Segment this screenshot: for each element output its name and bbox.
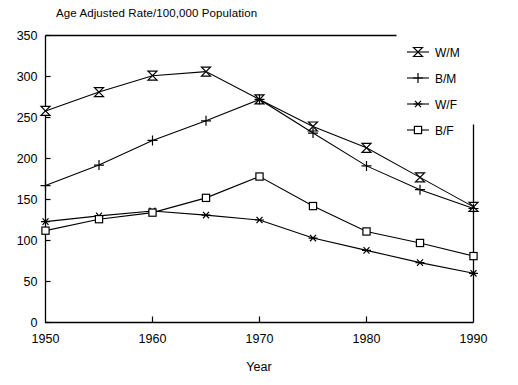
y-tick-label: 350	[17, 29, 38, 43]
data-point-marker	[94, 160, 104, 170]
x-tick-label: 1980	[353, 332, 381, 346]
data-point-marker	[416, 173, 425, 182]
data-point-marker	[95, 88, 104, 97]
data-point-marker	[470, 252, 477, 259]
x-axis-title: Year	[246, 360, 271, 374]
legend-label: B/M	[435, 72, 456, 86]
data-point-marker	[41, 181, 51, 191]
y-tick-label: 300	[17, 70, 38, 84]
y-tick-label: 200	[17, 152, 38, 166]
data-point-marker	[256, 173, 263, 180]
series-line	[46, 177, 474, 257]
data-point-marker	[41, 106, 50, 115]
y-tick-label: 100	[17, 234, 38, 248]
data-point-marker	[416, 239, 423, 246]
data-point-marker	[42, 227, 49, 234]
chart-plot-area: 050100150200250300350 195019601970198019…	[0, 0, 518, 385]
x-tick-label: 1950	[32, 332, 60, 346]
data-point-marker	[362, 143, 371, 152]
y-tick-label: 50	[24, 275, 38, 289]
x-tick-label: 1960	[139, 332, 167, 346]
data-point-marker	[149, 209, 156, 216]
data-point-marker	[362, 247, 371, 253]
y-tick-label: 250	[17, 111, 38, 125]
legend-label: W/F	[435, 98, 457, 112]
x-tick-label: 1990	[460, 332, 488, 346]
data-point-marker	[202, 212, 211, 218]
data-point-marker	[415, 185, 425, 195]
x-axis: 19501960197019801990	[32, 317, 488, 346]
legend-marker-icon	[414, 126, 421, 133]
data-point-marker	[95, 216, 102, 223]
legend-label: B/F	[435, 124, 454, 138]
data-point-marker	[363, 228, 370, 235]
x-tick-label: 1970	[246, 332, 274, 346]
data-point-marker	[309, 202, 316, 209]
legend-item-b-f: B/F	[407, 124, 454, 138]
data-point-marker	[148, 135, 158, 145]
data-point-marker	[416, 259, 425, 265]
data-point-marker	[255, 217, 264, 223]
data-point-marker	[309, 235, 318, 241]
y-tick-label: 0	[31, 316, 38, 330]
data-point-marker	[201, 116, 211, 126]
data-point-marker	[202, 194, 209, 201]
legend-label: W/M	[435, 46, 460, 60]
chart-figure: Age Adjusted Rate/100,000 Population	[0, 0, 518, 385]
data-point-marker	[362, 161, 372, 171]
legend: W/MB/MW/FB/F	[397, 31, 487, 138]
y-tick-label: 150	[17, 193, 38, 207]
